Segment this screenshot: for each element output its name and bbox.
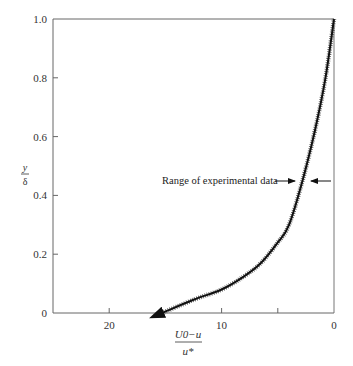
y-tick-label: 0.2 xyxy=(33,248,47,260)
annotation-text: Range of experimental data xyxy=(162,175,278,186)
y-axis-label: y δ xyxy=(21,162,29,187)
svg-text:U0−u: U0−u xyxy=(175,328,202,340)
y-axis-ticks: 00.20.40.60.81.0 xyxy=(33,13,58,319)
x-axis-label: U0−u u* xyxy=(175,328,202,357)
y-tick-label: 0.6 xyxy=(33,131,47,143)
y-tick-label: 0.8 xyxy=(33,72,47,84)
x-tick-label: 20 xyxy=(104,319,116,331)
y-tick-label: 0.4 xyxy=(33,189,47,201)
plot-frame xyxy=(53,19,334,313)
range-annotation: Range of experimental data xyxy=(162,175,331,186)
y-tick-label: 1.0 xyxy=(33,13,47,25)
svg-text:u*: u* xyxy=(183,345,195,357)
x-tick-label: 0 xyxy=(331,319,337,331)
chart-canvas: 00.20.40.60.81.0 20100 Range of experime… xyxy=(0,0,353,366)
x-tick-label: 10 xyxy=(216,319,228,331)
experimental-data-band xyxy=(162,19,334,313)
svg-text:δ: δ xyxy=(23,176,28,187)
x-axis-ticks: 20100 xyxy=(104,308,338,331)
velocity-defect-curve xyxy=(162,19,334,313)
y-tick-label: 0 xyxy=(42,307,48,319)
svg-text:y: y xyxy=(22,162,28,173)
